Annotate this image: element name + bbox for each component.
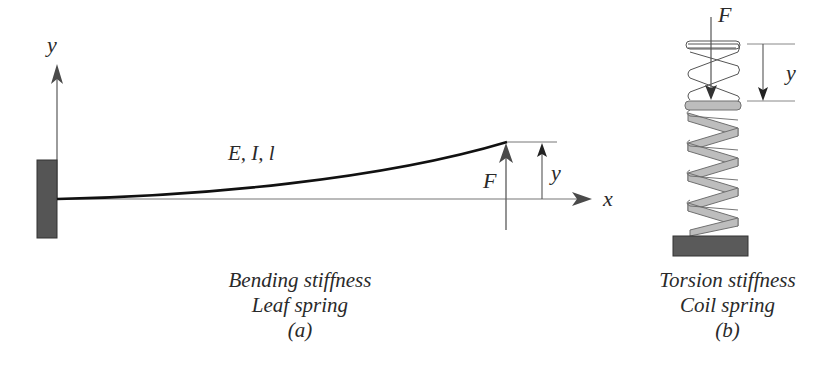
deflection-label: y (549, 160, 561, 185)
caption-b-line1: Torsion stiffness (620, 268, 835, 293)
fixed-wall (37, 160, 57, 238)
beam-properties-label: E, I, l (227, 141, 275, 165)
caption-a: Bending stiffness Leaf spring (a) (180, 268, 420, 343)
deflected-beam (57, 142, 507, 199)
caption-b: Torsion stiffness Coil spring (b) (620, 268, 835, 343)
force-label: F (482, 168, 497, 193)
panel-b: F y (673, 2, 796, 256)
x-axis-label: x (602, 186, 613, 211)
diagram-canvas: y x E, I, l F y (0, 0, 835, 389)
y-axis-label: y (45, 32, 57, 57)
caption-a-line1: Bending stiffness (180, 268, 420, 293)
panel-a: y x E, I, l F y (37, 32, 613, 238)
spring-force-label: F (717, 2, 732, 27)
spring-deflection-label: y (784, 60, 796, 85)
caption-a-line2: Leaf spring (180, 293, 420, 318)
caption-a-tag: (a) (180, 318, 420, 343)
spring-base-plate (673, 236, 748, 256)
spring-compressed-coils (685, 101, 741, 236)
caption-b-line2: Coil spring (620, 293, 835, 318)
caption-b-tag: (b) (620, 318, 835, 343)
